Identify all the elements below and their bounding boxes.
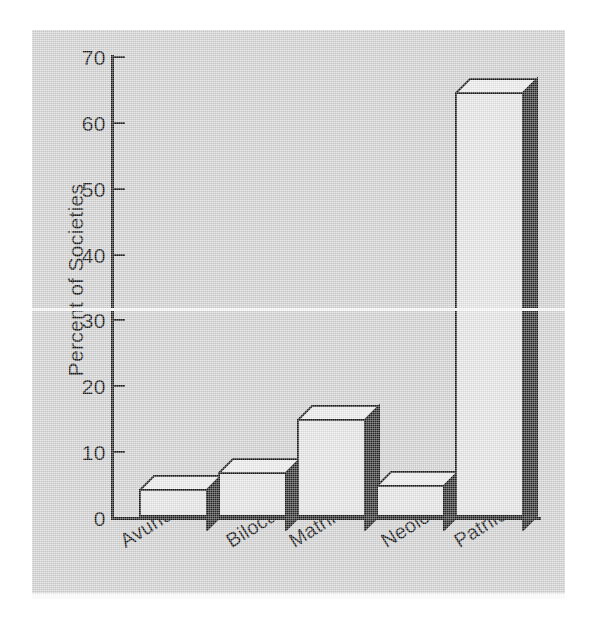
bar-neolocal[interactable] xyxy=(376,459,445,517)
bar-avunculocal-front-face xyxy=(139,489,208,517)
bar-patrilocal-front-face xyxy=(455,92,524,517)
y-tick-label-10: 10 xyxy=(62,442,106,463)
y-tick-30 xyxy=(114,319,125,321)
bar-bilocal[interactable] xyxy=(218,446,287,517)
y-tick-label-60: 60 xyxy=(62,113,106,134)
bar-bilocal-front-face xyxy=(218,472,287,517)
y-tick-20 xyxy=(114,385,125,387)
bar-patrilocal[interactable] xyxy=(455,66,524,517)
bar-chart-plot: 70 60 50 40 30 20 10 0 xyxy=(32,30,565,595)
bar-avunculocal[interactable] xyxy=(139,463,208,517)
bar-matrilocal-front-face xyxy=(297,419,366,517)
y-tick-label-70: 70 xyxy=(62,47,106,68)
y-tick-60 xyxy=(114,122,125,124)
figure-plate: 70 60 50 40 30 20 10 0 xyxy=(32,30,565,595)
bar-matrilocal[interactable] xyxy=(297,393,366,517)
y-tick-40 xyxy=(114,254,125,256)
bar-neolocal-front-face xyxy=(376,485,445,517)
y-tick-label-0: 0 xyxy=(62,508,106,529)
y-axis-title: Percent of Societies xyxy=(64,170,88,390)
y-tick-50 xyxy=(114,188,125,190)
y-tick-70 xyxy=(114,56,125,58)
y-tick-10 xyxy=(114,451,125,453)
